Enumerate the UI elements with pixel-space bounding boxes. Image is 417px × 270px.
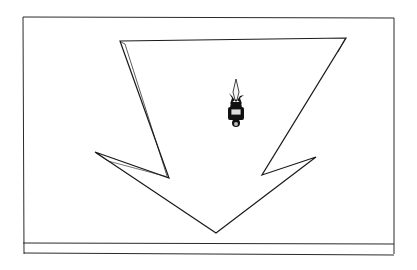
person-figure-icon xyxy=(228,79,244,127)
sketch-canvas xyxy=(0,0,417,270)
frame-bottom-line xyxy=(24,253,394,255)
frame xyxy=(23,17,394,255)
frame-inner-line xyxy=(23,243,394,244)
frame-left-line xyxy=(23,17,24,254)
down-arrow-icon xyxy=(95,38,346,233)
frame-top-line xyxy=(23,17,394,18)
